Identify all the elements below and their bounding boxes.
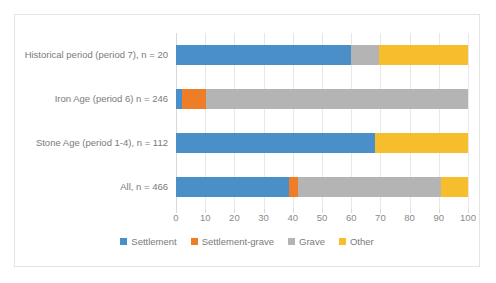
bar-row[interactable]: Iron Age (period 6) n = 246: [176, 89, 468, 109]
category-label: Stone Age (period 1-4), n = 112: [36, 138, 168, 148]
x-tick-label: 80: [404, 213, 415, 223]
legend-item-settlement[interactable]: Settlement: [120, 237, 176, 247]
legend-swatch-icon: [288, 238, 295, 245]
bar-track: [176, 45, 468, 65]
category-label: Historical period (period 7), n = 20: [25, 50, 168, 60]
bar-segment-settlement[interactable]: [176, 133, 375, 153]
x-tick-label: 100: [460, 213, 476, 223]
bar-segment-other[interactable]: [379, 45, 468, 65]
bar-segment-settlement[interactable]: [176, 45, 351, 65]
x-axis: 0102030405060708090100: [176, 213, 468, 229]
chart-frame: Historical period (period 7), n = 20Iron…: [14, 14, 480, 267]
x-tick-label: 70: [375, 213, 386, 223]
x-tick-label: 60: [346, 213, 357, 223]
legend-item-settlement-grave[interactable]: Settlement-grave: [191, 237, 274, 247]
bar-segment-other[interactable]: [441, 177, 468, 197]
legend-item-other[interactable]: Other: [339, 237, 374, 247]
legend-swatch-icon: [191, 238, 198, 245]
x-tick-label: 50: [317, 213, 328, 223]
x-tick-label: 40: [288, 213, 299, 223]
bar-track: [176, 133, 468, 153]
x-tick-label: 0: [173, 213, 178, 223]
gridline-100: [468, 33, 469, 209]
bar-segment-settlement[interactable]: [176, 177, 289, 197]
bar-segment-other[interactable]: [375, 133, 468, 153]
bar-segment-settlement-grave[interactable]: [289, 177, 298, 197]
bar-segment-grave[interactable]: [351, 45, 379, 65]
x-tick-label: 30: [258, 213, 269, 223]
chart-legend: SettlementSettlement-graveGraveOther: [15, 237, 479, 247]
bar-segment-grave[interactable]: [206, 89, 468, 109]
x-tick-label: 20: [229, 213, 240, 223]
legend-label: Other: [350, 237, 374, 247]
bar-segment-settlement-grave[interactable]: [182, 89, 206, 109]
legend-label: Grave: [299, 237, 325, 247]
bar-track: [176, 89, 468, 109]
bar-row[interactable]: Stone Age (period 1-4), n = 112: [176, 133, 468, 153]
legend-label: Settlement-grave: [202, 237, 274, 247]
plot-area: Historical period (period 7), n = 20Iron…: [176, 33, 468, 209]
legend-swatch-icon: [120, 238, 127, 245]
x-tick-label: 10: [200, 213, 211, 223]
bar-row[interactable]: Historical period (period 7), n = 20: [176, 45, 468, 65]
bar-segment-grave[interactable]: [298, 177, 441, 197]
x-tick-label: 90: [434, 213, 445, 223]
legend-swatch-icon: [339, 238, 346, 245]
bar-track: [176, 177, 468, 197]
legend-label: Settlement: [131, 237, 176, 247]
bar-row[interactable]: All, n = 466: [176, 177, 468, 197]
category-label: Iron Age (period 6) n = 246: [55, 94, 168, 104]
legend-item-grave[interactable]: Grave: [288, 237, 325, 247]
category-label: All, n = 466: [120, 182, 168, 192]
